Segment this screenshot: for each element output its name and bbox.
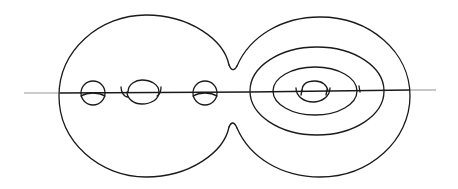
- surface-diagram: [0, 0, 458, 189]
- outer-boundary-upper: [59, 15, 229, 177]
- diagram-canvas: [0, 0, 458, 189]
- handle-left-3: [193, 81, 217, 105]
- neck-notch-bottom: [229, 123, 237, 128]
- neck-notch-top: [229, 65, 237, 70]
